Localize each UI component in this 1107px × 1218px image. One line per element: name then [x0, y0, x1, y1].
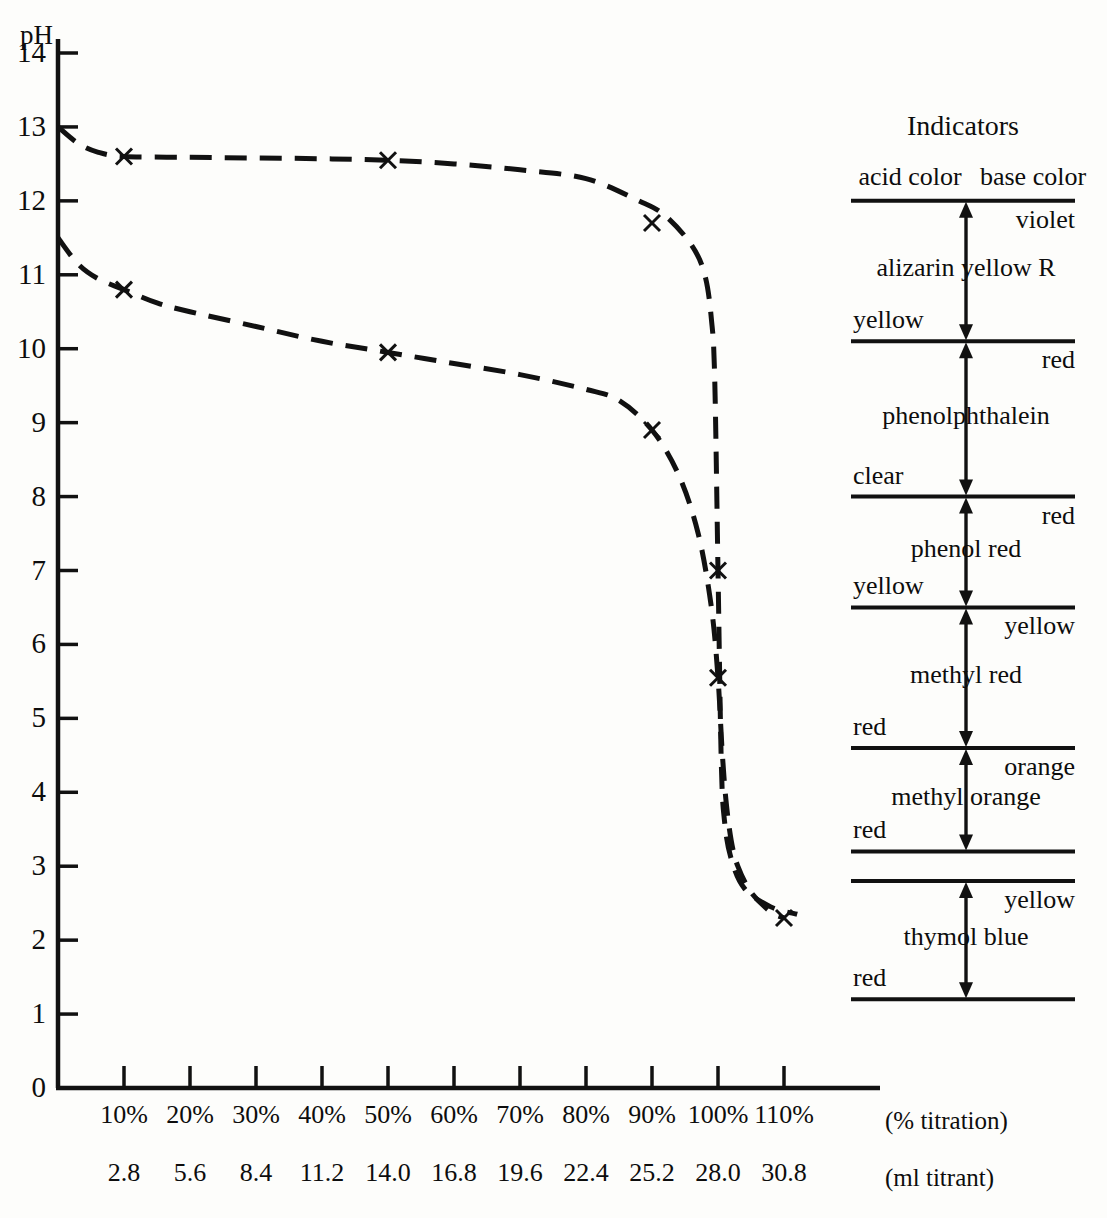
indicator-name-4: methyl red	[846, 660, 1086, 689]
y-axis-tick-label: 9	[2, 408, 46, 437]
base-color-4: yellow	[955, 613, 1075, 639]
base-color-3: red	[955, 503, 1075, 529]
y-axis-tick-label: 2	[2, 925, 46, 954]
base-color-1: violet	[955, 207, 1075, 233]
indicator-name-6: thymol blue	[846, 922, 1086, 951]
y-axis-tick-label: 7	[2, 556, 46, 585]
titration-figure: pH 14131211109876543210 10%20%30%40%50%6…	[0, 0, 1107, 1218]
acid-color-3: yellow	[853, 573, 924, 599]
y-axis-tick-label: 0	[2, 1073, 46, 1102]
indicator-name-1: alizarin yellow R	[846, 253, 1086, 282]
x-axis-percent-label: 110%	[744, 1102, 824, 1128]
acid-color-5: red	[853, 817, 886, 843]
x-axis-ml-label: 30.8	[744, 1160, 824, 1186]
y-axis-tick-label: 12	[2, 186, 46, 215]
y-axis-tick-label: 1	[2, 999, 46, 1028]
arrow-head-down	[959, 590, 973, 606]
base-color-2: red	[955, 347, 1075, 373]
y-axis-tick-label: 5	[2, 703, 46, 732]
arrow-head-down	[959, 731, 973, 747]
y-axis-tick-label: 11	[2, 260, 46, 289]
x-axis-percent-caption: (% titration)	[885, 1108, 1008, 1133]
arrow-head-down	[959, 982, 973, 998]
x-axis-ml-caption: (ml titrant)	[885, 1165, 994, 1190]
y-axis-tick-label: 14	[2, 38, 46, 67]
y-axis-tick-label: 4	[2, 777, 46, 806]
acid-color-4: red	[853, 714, 886, 740]
indicator-name-5: methyl orange	[846, 782, 1086, 811]
base-color-6: yellow	[955, 887, 1075, 913]
acid-color-6: red	[853, 965, 886, 991]
y-axis-tick-label: 8	[2, 482, 46, 511]
acid-color-1: yellow	[853, 307, 924, 333]
arrow-head-down	[959, 480, 973, 496]
arrow-head-down	[959, 834, 973, 850]
y-axis-tick-label: 3	[2, 851, 46, 880]
indicator-name-3: phenol red	[846, 534, 1086, 563]
acid-color-header: acid color	[855, 162, 965, 191]
arrow-head-down	[959, 324, 973, 340]
base-color-header: base color	[978, 162, 1088, 191]
y-axis-tick-label: 6	[2, 629, 46, 658]
indicators-title: Indicators	[843, 112, 1083, 140]
acid-color-2: clear	[853, 463, 904, 489]
y-axis-tick-label: 10	[2, 334, 46, 363]
base-color-5: orange	[955, 754, 1075, 780]
y-axis-tick-label: 13	[2, 112, 46, 141]
indicator-name-2: phenolphthalein	[846, 401, 1086, 430]
